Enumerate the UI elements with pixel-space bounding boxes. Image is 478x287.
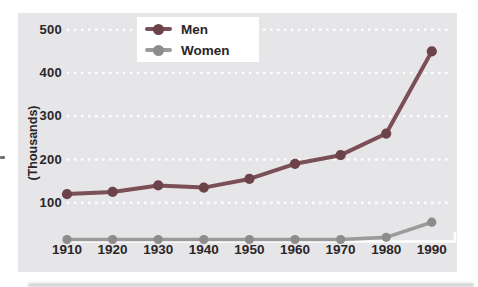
men-point-1940 (199, 183, 209, 193)
x-tick-1970: 1970 (318, 242, 364, 257)
x-tick-1980: 1980 (363, 242, 409, 257)
men-point-1910 (62, 189, 72, 199)
men-point-1990 (427, 46, 437, 56)
women-point-1980 (382, 233, 391, 242)
x-tick-1930: 1930 (135, 242, 181, 257)
legend-item-men: Men (145, 21, 259, 38)
men-point-1920 (108, 187, 118, 197)
legend-label-men: Men (181, 22, 208, 37)
men-line-legend-marker (145, 27, 172, 31)
men-point-1950 (244, 174, 254, 184)
x-tick-1990: 1990 (409, 242, 455, 257)
page-bottom-shadow (28, 283, 474, 287)
page-edge-artifact (0, 156, 5, 159)
y-tick-500: 500 (18, 22, 62, 38)
page: { "figure": { "background": "#ffffff", "… (0, 0, 478, 287)
x-tick-1910: 1910 (44, 242, 90, 257)
y-tick-300: 300 (18, 108, 62, 124)
x-tick-1950: 1950 (226, 242, 272, 257)
y-tick-400: 400 (18, 65, 62, 81)
women-point-1990 (427, 218, 436, 227)
legend-item-women: Women (145, 42, 259, 59)
men-dot-icon (153, 24, 164, 35)
women-dot-icon (153, 45, 164, 56)
men-point-1960 (290, 159, 300, 169)
x-tick-1960: 1960 (272, 242, 318, 257)
legend-label-women: Women (181, 43, 230, 58)
men-point-1930 (153, 180, 163, 190)
x-tick-1920: 1920 (90, 242, 136, 257)
x-tick-1940: 1940 (181, 242, 227, 257)
chart-area: (Thousands) 100200300400500 191019201930… (18, 13, 457, 272)
y-tick-200: 200 (18, 152, 62, 168)
men-point-1970 (336, 150, 346, 160)
women-line-legend-marker (145, 48, 172, 52)
y-tick-100: 100 (18, 195, 62, 211)
men-point-1980 (381, 128, 391, 138)
legend: Men Women (137, 17, 259, 62)
